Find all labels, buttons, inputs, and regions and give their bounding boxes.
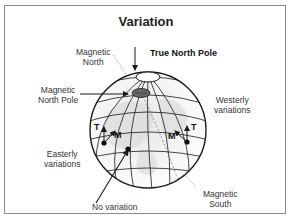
label-westerly-variations: Westerlyvariations (214, 96, 250, 115)
label-easterly-variations: Easterlyvariations (44, 150, 80, 169)
true-marker-westerly: T (191, 123, 197, 133)
magnetic-south-leader (184, 174, 195, 186)
label-magnetic-south: MagneticSouth (203, 190, 238, 209)
magnetic-marker-westerly: M (168, 132, 176, 142)
true-marker-easterly: T (94, 123, 100, 133)
label-magnetic-north-pole: MagneticNorth Pole (38, 86, 78, 105)
no-variation-point (125, 146, 130, 151)
label-magnetic-north: MagneticNorth (76, 48, 111, 67)
label-true-north-pole: True North Pole (150, 49, 217, 59)
true-north-cap (136, 72, 160, 82)
label-no-variation: No variation (92, 203, 137, 213)
magnetic-marker-easterly: M (114, 131, 122, 141)
magnetic-north-leader (113, 55, 126, 74)
